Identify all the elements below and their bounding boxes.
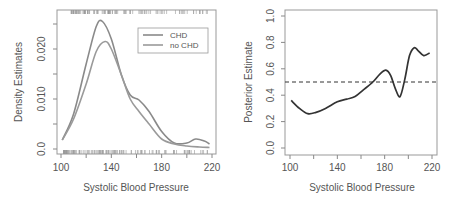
left-x-axis-label: Systolic Blood Pressure [83, 182, 189, 193]
svg-text:100: 100 [282, 162, 299, 173]
left-y-axis: 0.00.0100.020 [36, 24, 57, 156]
legend-chd-label: CHD [170, 31, 188, 40]
rug-top-chd [71, 10, 207, 14]
legend-no-chd-label: no CHD [170, 41, 199, 50]
svg-text:220: 220 [204, 162, 221, 173]
rug-bottom-no-chd [64, 150, 208, 154]
svg-text:0.0: 0.0 [36, 142, 47, 156]
density-plot: 100140180220 0.00.0100.020 CHD no CHD Sy… [13, 10, 221, 193]
svg-text:220: 220 [424, 162, 441, 173]
posterior-plot: 100140180220 0.00.20.40.60.81.0 Systolic… [243, 9, 441, 193]
right-x-axis: 100140180220 [282, 155, 441, 173]
svg-text:1.0: 1.0 [265, 9, 276, 23]
svg-text:140: 140 [103, 162, 120, 173]
svg-text:0.8: 0.8 [265, 35, 276, 49]
svg-text:180: 180 [376, 162, 393, 173]
svg-text:0.2: 0.2 [265, 114, 276, 128]
right-y-axis-label: Posterior Estimate [243, 41, 254, 123]
left-x-axis: 100140180220 [53, 154, 221, 173]
svg-text:0.020: 0.020 [36, 36, 47, 61]
right-x-axis-label: Systolic Blood Pressure [309, 182, 415, 193]
figure: 100140180220 0.00.0100.020 CHD no CHD Sy… [0, 0, 455, 203]
svg-text:140: 140 [329, 162, 346, 173]
posterior-curve [291, 47, 429, 113]
legend: CHD no CHD [138, 28, 208, 53]
right-y-axis: 0.00.20.40.60.81.0 [265, 9, 285, 155]
svg-text:100: 100 [53, 162, 70, 173]
svg-text:0.0: 0.0 [265, 141, 276, 155]
svg-text:0.010: 0.010 [36, 86, 47, 111]
svg-text:180: 180 [153, 162, 170, 173]
no-chd-density-curve [62, 41, 209, 147]
svg-text:0.4: 0.4 [265, 88, 276, 102]
left-y-axis-label: Density Estimates [13, 42, 24, 122]
svg-text:0.6: 0.6 [265, 61, 276, 75]
